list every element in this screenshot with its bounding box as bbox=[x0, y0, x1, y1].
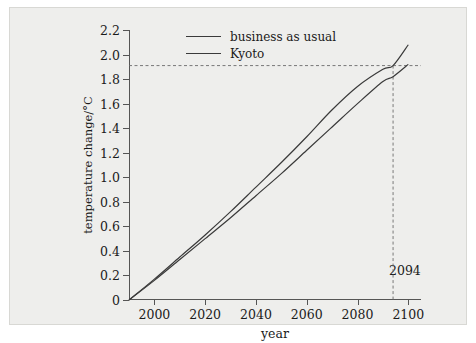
x-axis-title: year bbox=[261, 326, 289, 341]
x-tick bbox=[408, 300, 409, 305]
x-tick bbox=[205, 300, 206, 305]
x-tick bbox=[154, 300, 155, 305]
x-tick-label: 2040 bbox=[240, 307, 272, 322]
y-tick-label: 0.2 bbox=[100, 268, 120, 283]
y-tick-label: 2.2 bbox=[100, 23, 120, 38]
y-tick bbox=[123, 300, 129, 301]
x-tick-label: 2000 bbox=[138, 307, 170, 322]
series-line bbox=[129, 45, 408, 300]
x-tick bbox=[256, 300, 257, 305]
x-tick-label: 2100 bbox=[392, 307, 424, 322]
y-tick-label: 0 bbox=[112, 293, 120, 308]
y-tick-label: 1.8 bbox=[100, 72, 120, 87]
chart-panel: temperature change/°C year business as u… bbox=[9, 7, 467, 325]
y-tick-label: 1.6 bbox=[100, 96, 120, 111]
x-tick bbox=[307, 300, 308, 305]
y-tick-label: 0.6 bbox=[100, 219, 120, 234]
x-tick-label: 2060 bbox=[291, 307, 323, 322]
plot-area: 00.20.40.60.81.01.21.41.61.82.02.2 20002… bbox=[129, 30, 421, 300]
y-axis-title: temperature change/°C bbox=[81, 96, 95, 234]
x-tick bbox=[358, 300, 359, 305]
chart-curves bbox=[129, 30, 421, 300]
x-tick-label: 2080 bbox=[342, 307, 374, 322]
y-tick-label: 1.0 bbox=[100, 170, 120, 185]
y-tick-label: 1.4 bbox=[100, 121, 120, 136]
x-tick-label: 2020 bbox=[189, 307, 221, 322]
y-tick-label: 1.2 bbox=[100, 145, 120, 160]
y-tick-label: 0.4 bbox=[100, 243, 120, 258]
figure-container: temperature change/°C year business as u… bbox=[0, 0, 476, 343]
y-tick-label: 0.8 bbox=[100, 194, 120, 209]
y-tick-label: 2.0 bbox=[100, 47, 120, 62]
